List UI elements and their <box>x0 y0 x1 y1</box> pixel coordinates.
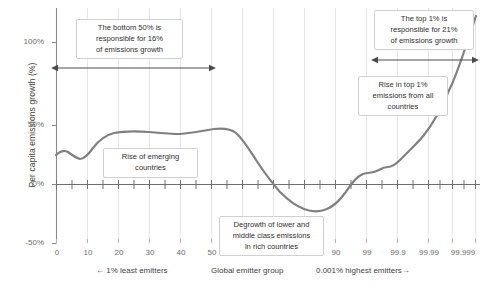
annotation-degrowth-line1: Degrowth of lower and <box>224 220 319 231</box>
annotation-rise-top-1: Rise in top 1% emissions from all countr… <box>358 76 448 116</box>
x-axis-title: Global emitter group <box>211 266 283 275</box>
x-tick-99-999: 99.999 <box>443 248 483 257</box>
annotation-bottom-50-line2: responsible for 16% <box>81 34 178 45</box>
annotation-top-1-line2: responsible for 21% <box>379 25 469 36</box>
annotation-degrowth-line2: middle class emissions <box>224 231 319 242</box>
annotation-top-1-line1: The top 1% is <box>379 14 469 25</box>
annotation-bottom-50: The bottom 50% is responsible for 16% of… <box>76 19 183 59</box>
y-tick-50: 50% <box>12 120 44 129</box>
annotation-rise-top-1-line2: emissions from all <box>363 91 443 102</box>
annotation-bottom-50-line1: The bottom 50% is <box>81 23 178 34</box>
annotation-rise-top-1-line3: countries <box>363 102 443 113</box>
chart-container: Per capita emissions growth (%) 100% 50%… <box>0 0 489 291</box>
y-tick-100: 100% <box>12 37 44 46</box>
annotation-bottom-50-line3: of emissions growth <box>81 45 178 56</box>
annotation-top-1: The top 1% is responsible for 21% of emi… <box>374 10 474 50</box>
annotation-degrowth-line3: in rich countries <box>224 242 319 253</box>
x-axis-caption-left: ← 1% least emitters <box>96 266 168 275</box>
y-tick-minus50: -50% <box>12 238 44 247</box>
annotation-degrowth: Degrowth of lower and middle class emiss… <box>219 216 324 256</box>
y-axis-ticks <box>52 43 57 244</box>
annotation-emerging-line1: Rise of emerging <box>108 152 193 163</box>
annotation-emerging-line2: countries <box>108 163 193 174</box>
annotation-emerging-countries: Rise of emerging countries <box>103 148 198 178</box>
annotation-top-1-line3: of emissions growth <box>379 36 469 47</box>
annotation-rise-top-1-line1: Rise in top 1% <box>363 80 443 91</box>
y-tick-0: 0% <box>12 179 44 188</box>
x-axis-caption-right: 0.001% highest emitters→ <box>316 266 410 275</box>
